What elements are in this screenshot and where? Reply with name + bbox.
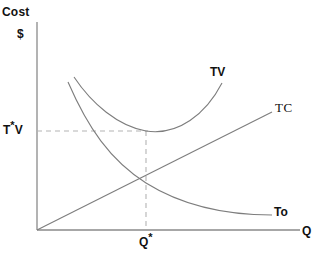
x-axis-title-quantity: Q [302, 225, 312, 237]
y-tick-label-tv-star: T*V [3, 124, 23, 136]
curve-to [68, 82, 272, 215]
curve-label-tc: TC [275, 101, 293, 114]
asterisk-icon: * [148, 231, 152, 243]
cost-curves-figure: Cost $ Q TV TC To T*V Q* [0, 0, 314, 257]
asterisk-icon: * [10, 119, 14, 131]
y-axis-title-cost: Cost [2, 6, 29, 18]
chart-canvas [0, 0, 314, 257]
y-axis-title-currency: $ [17, 28, 24, 40]
curve-label-tv: TV [210, 66, 225, 78]
curve-label-to: To [274, 206, 288, 218]
curve-tc [37, 112, 272, 230]
curve-tv [74, 77, 222, 132]
x-tick-label-q-star: Q* [139, 236, 153, 248]
